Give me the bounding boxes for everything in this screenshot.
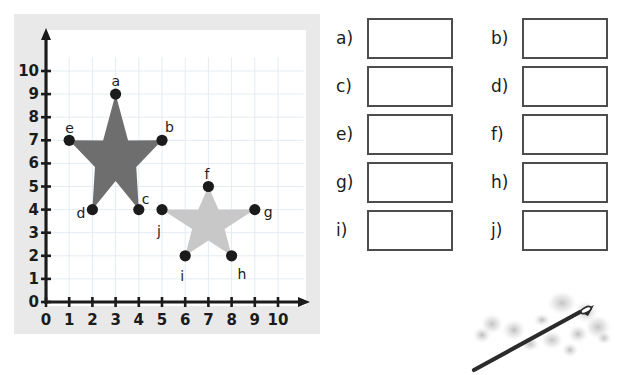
answer-box-b[interactable] <box>522 18 608 59</box>
point-label-d: d <box>76 206 85 220</box>
point-label-c: c <box>142 192 150 206</box>
answer-letter-i: i) <box>336 221 347 239</box>
point-label-a: a <box>112 74 121 88</box>
y-tick-2: 2 <box>13 248 39 264</box>
point-marker-a <box>110 89 121 100</box>
y-tick-4: 4 <box>13 202 39 218</box>
answer-letter-d: d) <box>491 77 508 95</box>
answer-letter-e: e) <box>336 125 353 143</box>
point-label-j: j <box>157 224 161 238</box>
point-marker-b <box>156 135 167 146</box>
x-tick-8: 8 <box>220 312 244 328</box>
answer-letter-h: h) <box>491 173 508 191</box>
needle-icon <box>452 272 632 375</box>
answer-letter-b: b) <box>491 29 508 47</box>
answer-box-g[interactable] <box>367 162 453 203</box>
answer-box-h[interactable] <box>522 162 608 203</box>
point-marker-f <box>203 181 214 192</box>
y-tick-0: 0 <box>13 294 39 310</box>
needle-smudges <box>472 290 612 358</box>
y-tick-8: 8 <box>13 109 39 125</box>
y-tick-9: 9 <box>13 86 39 102</box>
answer-box-j[interactable] <box>522 210 608 251</box>
y-tick-6: 6 <box>13 155 39 171</box>
answer-letter-c: c) <box>336 77 352 95</box>
answer-letter-j: j) <box>491 221 502 239</box>
answer-letter-g: g) <box>336 173 353 191</box>
answer-box-c[interactable] <box>367 66 453 107</box>
point-marker-g <box>249 204 260 215</box>
x-tick-4: 4 <box>127 312 151 328</box>
point-label-e: e <box>65 121 74 135</box>
coordinate-graph-panel: 012345678910 012345678910 abcdefghij <box>14 14 320 334</box>
answer-box-i[interactable] <box>367 210 453 251</box>
answer-box-f[interactable] <box>522 114 608 155</box>
answer-box-e[interactable] <box>367 114 453 155</box>
x-tick-5: 5 <box>150 312 174 328</box>
axis-lines <box>41 28 310 307</box>
y-tick-1: 1 <box>13 271 39 287</box>
grid-lines <box>46 57 304 302</box>
x-tick-6: 6 <box>173 312 197 328</box>
answers-panel: a)b)c)d)e)f)g)h)i)j) <box>336 10 626 270</box>
x-tick-10: 10 <box>266 312 290 328</box>
x-tick-1: 1 <box>57 312 81 328</box>
point-label-g: g <box>264 205 273 219</box>
y-tick-7: 7 <box>13 132 39 148</box>
point-label-h: h <box>238 267 247 281</box>
point-label-b: b <box>165 120 174 134</box>
x-tick-9: 9 <box>243 312 267 328</box>
x-tick-3: 3 <box>104 312 128 328</box>
answer-letter-a: a) <box>336 29 353 47</box>
point-marker-e <box>64 135 75 146</box>
y-tick-3: 3 <box>13 225 39 241</box>
point-label-f: f <box>204 167 209 181</box>
point-marker-j <box>156 204 167 215</box>
y-tick-5: 5 <box>13 179 39 195</box>
point-marker-h <box>226 250 237 261</box>
answer-box-a[interactable] <box>367 18 453 59</box>
x-tick-2: 2 <box>80 312 104 328</box>
point-marker-d <box>87 204 98 215</box>
x-tick-7: 7 <box>196 312 220 328</box>
x-tick-0: 0 <box>34 312 58 328</box>
point-marker-i <box>180 250 191 261</box>
answer-box-d[interactable] <box>522 66 608 107</box>
graph-svg <box>14 14 320 334</box>
point-label-i: i <box>180 269 184 283</box>
answer-letter-f: f) <box>491 125 504 143</box>
needle-illustration <box>452 272 632 375</box>
y-tick-10: 10 <box>13 63 39 79</box>
